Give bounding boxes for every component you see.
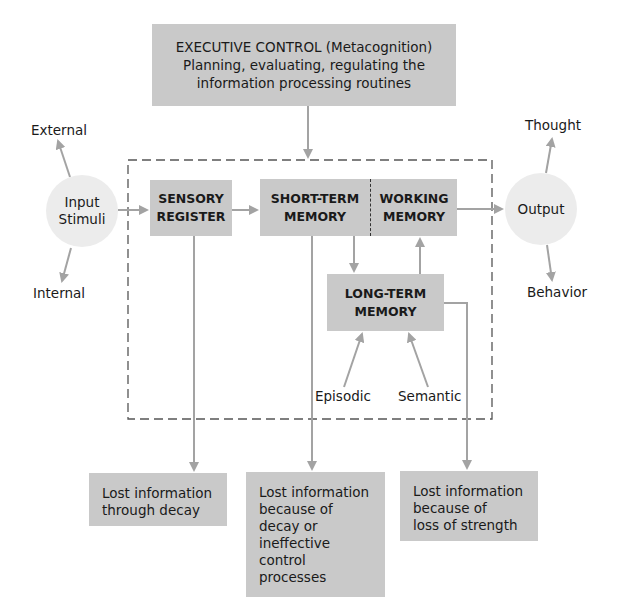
loss-text: processes: [259, 569, 385, 586]
loss-text: Lost information: [102, 485, 227, 502]
loss-text: loss of strength: [413, 517, 538, 534]
long-term-memory-box: LONG-TERM MEMORY: [327, 274, 444, 331]
loss-text: because of: [413, 500, 538, 517]
executive-desc-1: Planning, evaluating, regulating the: [176, 56, 433, 74]
internal-label: Internal: [33, 285, 85, 301]
arrow-semantic-to-ltm: [409, 334, 428, 387]
loss-box-sensory: Lost information through decay: [89, 473, 227, 526]
executive-desc-2: information processing routines: [176, 74, 433, 92]
loss-text: through decay: [102, 502, 227, 519]
executive-title: EXECUTIVE CONTROL (Metacognition): [176, 38, 433, 56]
loss-text: decay or: [259, 518, 385, 535]
working-memory: WORKING MEMORY: [371, 179, 457, 236]
input-label-2: Stimuli: [59, 211, 106, 228]
sensory-register-box: SENSORY REGISTER: [150, 180, 232, 236]
semantic-label: Semantic: [398, 388, 461, 404]
arrow-to-thought: [546, 139, 552, 173]
episodic-label: Episodic: [315, 388, 371, 404]
loss-text: Lost information: [413, 483, 538, 500]
arrow-episodic-to-ltm: [344, 334, 362, 387]
stm-wm-box: SHORT-TERM MEMORY WORKING MEMORY: [260, 179, 457, 236]
arrow-to-internal: [62, 248, 71, 281]
external-label: External: [31, 122, 87, 138]
behavior-label: Behavior: [527, 284, 587, 300]
loss-text: control: [259, 552, 385, 569]
arrow-to-behavior: [547, 245, 552, 280]
input-label-1: Input: [59, 194, 106, 211]
sensory-label-1: SENSORY: [157, 190, 226, 208]
loss-box-stm: Lost information because of decay or ine…: [246, 472, 385, 597]
output-node: Output: [505, 173, 577, 245]
ltm-label-1: LONG-TERM: [345, 285, 426, 303]
loss-text: because of: [259, 501, 385, 518]
stm-label-2: MEMORY: [271, 208, 359, 226]
sensory-label-2: REGISTER: [157, 208, 226, 226]
arrow-ltm-to-loss: [444, 303, 467, 468]
short-term-memory: SHORT-TERM MEMORY: [260, 179, 370, 236]
wm-label-2: MEMORY: [379, 208, 448, 226]
ltm-label-2: MEMORY: [345, 303, 426, 321]
arrow-to-external: [58, 141, 70, 177]
loss-box-ltm: Lost information because of loss of stre…: [400, 471, 538, 541]
input-stimuli-node: Input Stimuli: [46, 175, 118, 247]
loss-text: Lost information: [259, 484, 385, 501]
stm-label-1: SHORT-TERM: [271, 190, 359, 208]
output-label: Output: [518, 201, 565, 218]
executive-control-box: EXECUTIVE CONTROL (Metacognition) Planni…: [152, 24, 456, 106]
loss-text: ineffective: [259, 535, 385, 552]
thought-label: Thought: [525, 117, 581, 133]
wm-label-1: WORKING: [379, 190, 448, 208]
